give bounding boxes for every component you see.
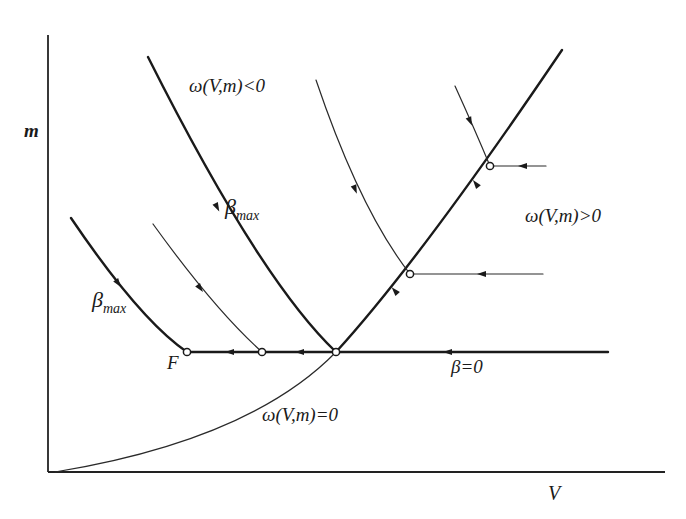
- beta-symbol: β: [91, 287, 103, 312]
- region-labels: ω(V,m)<0 ω(V,m)>0 ω(V,m)=0 β=0 F βmax βm…: [91, 75, 602, 426]
- arrow-beta0-center-icon: [295, 349, 304, 355]
- junction-mid-left: [258, 348, 265, 355]
- final-point-label: F: [166, 352, 179, 373]
- junction-mid: [406, 270, 413, 277]
- direction-arrows: [113, 116, 527, 355]
- trajectory-upper-center: [316, 80, 410, 274]
- beta-max-upper: [148, 57, 336, 352]
- beta-max-upper-label: βmax: [224, 194, 260, 223]
- y-axis-label: m: [24, 120, 39, 141]
- arrow-traj-top-icon: [466, 116, 475, 127]
- arrow-beta0-right-icon: [443, 349, 452, 355]
- trajectory-mid-left: [153, 224, 262, 352]
- beta-max-lower: [71, 218, 187, 352]
- junction-nodes: [183, 162, 493, 355]
- beta-subscript: max: [236, 208, 260, 223]
- arrow-feeder-top-icon: [518, 163, 527, 169]
- arrow-beta0-left-icon: [225, 349, 234, 355]
- phase-plane-diagram: m V ω(V,m)<0 ω(V,m)>0 ω(V,m)=0 β=0 F βma…: [0, 0, 686, 519]
- singular-arc-upper: [336, 50, 562, 352]
- beta-symbol: β: [224, 194, 236, 219]
- trajectory-top-right: [455, 86, 490, 166]
- beta-subscript: max: [103, 301, 127, 316]
- region-negative-label: ω(V,m)<0: [189, 75, 266, 97]
- beta-zero-label: β=0: [450, 356, 483, 377]
- arrow-traj-midleft-icon: [195, 283, 205, 294]
- region-positive-label: ω(V,m)>0: [525, 205, 602, 227]
- singular-curve-label: ω(V,m)=0: [262, 404, 339, 426]
- arrow-betamax-upper-icon: [213, 202, 222, 213]
- final-point-F: [183, 348, 190, 355]
- arrow-feeder-mid-icon: [477, 271, 486, 277]
- junction-top: [486, 162, 493, 169]
- axes: m V: [24, 35, 665, 504]
- x-axis-label: V: [548, 482, 563, 504]
- junction-central: [332, 348, 339, 355]
- beta-max-lower-label: βmax: [91, 287, 127, 316]
